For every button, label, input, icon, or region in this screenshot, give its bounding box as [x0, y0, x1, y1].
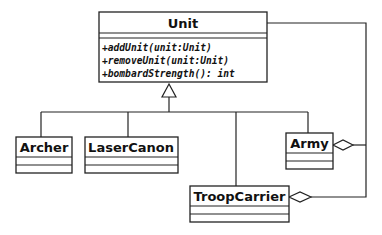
army-class-name: Army: [290, 136, 329, 151]
unit-operation-add: +addUnit(unit:Unit): [102, 42, 212, 53]
class-army[interactable]: Army: [286, 133, 333, 169]
class-unit[interactable]: Unit +addUnit(unit:Unit) +removeUnit(uni…: [99, 12, 267, 82]
class-troopcarrier[interactable]: TroopCarrier: [190, 186, 289, 222]
unit-class-name: Unit: [168, 16, 198, 31]
archer-class-name: Archer: [20, 140, 69, 155]
generalization-triangle-icon: [162, 84, 176, 97]
class-archer[interactable]: Archer: [16, 137, 72, 173]
unit-operation-bombard: +bombardStrength(): int: [102, 68, 235, 79]
uml-class-diagram: Unit +addUnit(unit:Unit) +removeUnit(uni…: [0, 0, 382, 235]
class-lasercanon[interactable]: LaserCanon: [85, 137, 178, 173]
lasercanon-class-name: LaserCanon: [88, 140, 174, 155]
unit-operation-remove: +removeUnit(unit:Unit): [102, 55, 229, 66]
army-aggregation-diamond-icon: [333, 140, 353, 150]
composite-unit-line: [267, 23, 366, 197]
troopcarrier-class-name: TroopCarrier: [194, 189, 286, 204]
troopcarrier-aggregation-diamond-icon: [289, 192, 311, 202]
